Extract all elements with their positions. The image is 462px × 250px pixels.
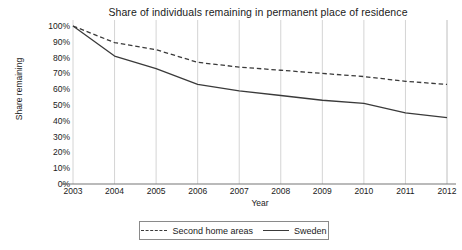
x-axis-tick-label: 2007: [230, 186, 249, 196]
legend-item[interactable]: Sweden: [263, 226, 327, 236]
chart-container: Share of individuals remaining in perman…: [0, 0, 462, 250]
legend-label: Sweden: [294, 226, 327, 236]
legend-label: Second home areas: [172, 226, 253, 236]
x-axis-tick-label: 2010: [354, 186, 373, 196]
series-line-second-home-areas: [73, 26, 447, 84]
x-axis-tick-label: 2006: [188, 186, 207, 196]
x-axis-tick-label: 2005: [147, 186, 166, 196]
x-axis-tick-label: 2009: [313, 186, 332, 196]
x-axis-tick-label: 2008: [271, 186, 290, 196]
legend-item[interactable]: Second home areas: [141, 226, 253, 236]
chart-legend: Second home areasSweden: [139, 221, 329, 240]
x-axis-tick-label: 2011: [396, 186, 414, 196]
series-line-sweden: [73, 26, 447, 118]
plot-area: [0, 0, 462, 250]
x-axis-tick-label: 2003: [64, 186, 83, 196]
legend-swatch-solid-icon: [263, 230, 289, 231]
x-axis-tick-label: 2012: [438, 186, 457, 196]
legend-swatch-dashed-icon: [141, 230, 167, 231]
x-axis-title: Year: [73, 198, 447, 208]
x-axis-tick-label: 2004: [105, 186, 124, 196]
